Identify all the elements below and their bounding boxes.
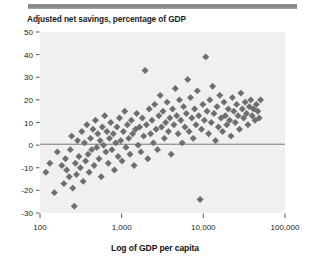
x-axis-tick-label: 100	[33, 223, 47, 232]
x-axis-tick-label: 100,000	[271, 223, 300, 232]
y-axis-tick-label: -10	[21, 164, 33, 173]
x-axis-tick-label: 1,000	[112, 223, 133, 232]
x-axis-tick-label: 10,000	[191, 223, 216, 232]
y-axis-tick-label: 40	[24, 51, 33, 60]
chart-figure: Adjusted net savings, percentage of GDP …	[0, 0, 310, 265]
scatter-plot: 50403020100-10-20-301001,00010,000100,00…	[0, 0, 310, 265]
y-axis-tick-label: 20	[24, 96, 33, 105]
y-axis-tick-label: 10	[24, 119, 33, 128]
y-axis-tick-label: 50	[24, 28, 33, 37]
y-axis-tick-label: -30	[21, 209, 33, 218]
y-axis-tick-label: 30	[24, 73, 33, 82]
y-axis-tick-label: -20	[21, 186, 33, 195]
x-axis-title: Log of GDP per capita	[0, 243, 310, 253]
y-axis-tick-label: 0	[29, 141, 34, 150]
